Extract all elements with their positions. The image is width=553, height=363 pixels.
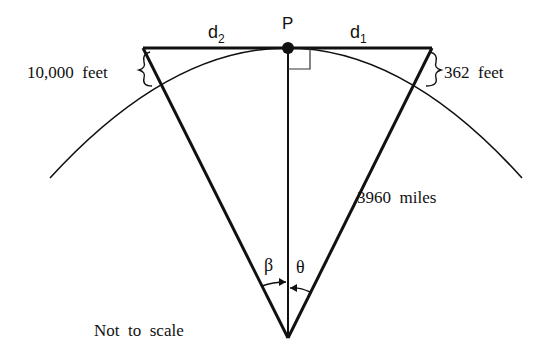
point-p-dot bbox=[282, 42, 294, 54]
point-p-label: P bbox=[282, 14, 293, 33]
d1-label: d1 bbox=[350, 22, 367, 46]
right-height-label: 362 feet bbox=[444, 63, 504, 82]
earth-horizon-diagram: P d2 d1 10,000 feet 362 feet 3960 miles … bbox=[0, 0, 553, 363]
left-height-label: 10,000 feet bbox=[27, 63, 108, 82]
left-brace bbox=[139, 52, 152, 86]
radius-label: 3960 miles bbox=[357, 188, 436, 207]
beta-label: β bbox=[264, 255, 273, 275]
left-radius-line bbox=[143, 48, 288, 338]
theta-label: θ bbox=[296, 257, 305, 277]
d2-label: d2 bbox=[208, 22, 225, 46]
beta-arrowhead bbox=[279, 278, 286, 286]
not-to-scale-note: Not to scale bbox=[94, 321, 184, 340]
theta-arrowhead bbox=[290, 284, 297, 292]
